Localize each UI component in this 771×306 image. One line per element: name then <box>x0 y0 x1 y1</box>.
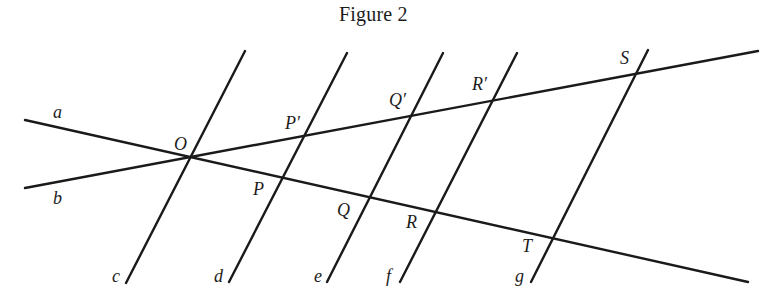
line-e <box>327 53 443 282</box>
geometry-diagram: a b c d e f g O P′ P Q′ Q R′ R S T <box>0 0 771 306</box>
label-line-d: d <box>214 266 224 286</box>
label-line-f: f <box>386 266 394 286</box>
label-line-a: a <box>53 102 62 122</box>
label-line-g: g <box>515 266 524 286</box>
label-line-c: c <box>112 266 120 286</box>
label-point-T: T <box>522 236 534 256</box>
label-point-O: O <box>174 134 187 154</box>
label-point-Q-prime: Q′ <box>389 90 407 110</box>
label-point-Q: Q <box>337 200 350 220</box>
line-a <box>25 120 748 282</box>
label-line-b: b <box>53 188 62 208</box>
label-line-e: e <box>314 266 322 286</box>
label-point-R: R <box>405 212 417 232</box>
line-d <box>229 53 347 282</box>
label-point-R-prime: R′ <box>471 74 488 94</box>
line-b <box>25 51 758 188</box>
label-point-P: P <box>252 179 264 199</box>
label-point-S: S <box>620 48 629 68</box>
label-point-P-prime: P′ <box>284 113 301 133</box>
line-f <box>400 53 517 282</box>
